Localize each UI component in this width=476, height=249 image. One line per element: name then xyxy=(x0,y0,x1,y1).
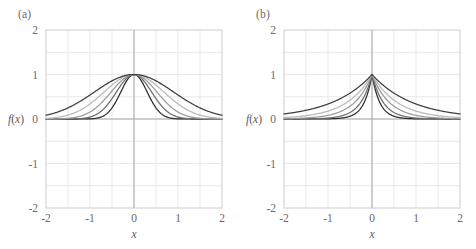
y-tick-label: 2 xyxy=(270,24,276,36)
figure-container: (a) -2-1012210-1-2xf(x) (b) -2-1012210-1… xyxy=(0,0,476,249)
y-tick-label: 2 xyxy=(32,24,38,36)
y-tick-label: 0 xyxy=(32,113,38,125)
x-tick-label: 1 xyxy=(413,212,419,224)
y-tick-label: 0 xyxy=(270,113,276,125)
y-tick-label: 1 xyxy=(270,69,276,81)
x-tick-label: -2 xyxy=(41,212,51,224)
x-tick-label: 2 xyxy=(219,212,225,224)
y-tick-label: -2 xyxy=(28,202,38,214)
panel-b-plot: -2-1012210-1-2xf(x) xyxy=(238,0,476,249)
panel-a: (a) -2-1012210-1-2xf(x) xyxy=(0,0,238,249)
y-tick-label: -1 xyxy=(266,158,276,170)
y-axis-title: f(x) xyxy=(8,113,24,126)
x-tick-label: -1 xyxy=(323,212,333,224)
x-axis-title: x xyxy=(130,228,137,240)
y-tick-label: 1 xyxy=(32,69,38,81)
y-axis-title: f(x) xyxy=(246,113,262,126)
panel-a-plot: -2-1012210-1-2xf(x) xyxy=(0,0,238,249)
y-tick-label: -1 xyxy=(28,158,38,170)
x-axis-title: x xyxy=(368,228,375,240)
x-tick-label: 0 xyxy=(369,212,375,224)
y-tick-label: -2 xyxy=(266,202,276,214)
x-tick-label: 1 xyxy=(175,212,181,224)
x-tick-label: -1 xyxy=(85,212,95,224)
panel-b: (b) -2-1012210-1-2xf(x) xyxy=(238,0,476,249)
x-tick-label: -2 xyxy=(279,212,289,224)
tick-labels: -2-1012210-1-2 xyxy=(266,24,463,224)
x-tick-label: 0 xyxy=(131,212,137,224)
x-tick-label: 2 xyxy=(457,212,463,224)
tick-labels: -2-1012210-1-2 xyxy=(28,24,225,224)
